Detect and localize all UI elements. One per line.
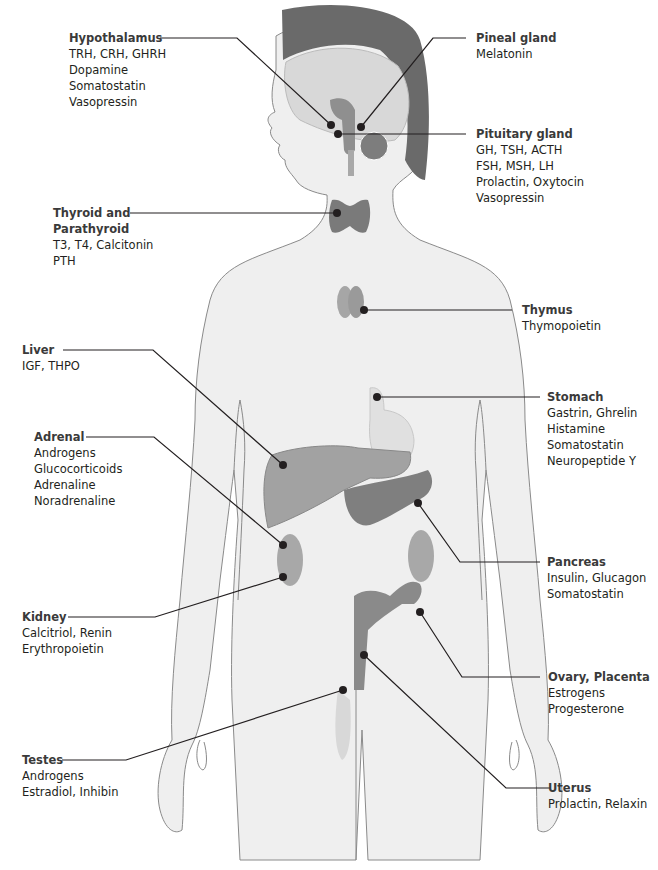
hormone-text: Noradrenaline xyxy=(34,493,122,509)
label-thyroid: Thyroid and Parathyroid T3, T4, Calciton… xyxy=(53,205,153,269)
hormone-text: Insulin, Glucagon xyxy=(547,570,646,586)
hormone-text: Androgens xyxy=(22,768,119,784)
hormone-text: Dopamine xyxy=(69,62,166,78)
hormone-text: Somatostatin xyxy=(547,586,646,602)
label-title: Testes xyxy=(22,752,119,768)
hormone-text: T3, T4, Calcitonin xyxy=(53,237,153,253)
hormone-text: Vasopressin xyxy=(476,190,584,206)
label-liver: Liver IGF, THPO xyxy=(22,342,80,374)
label-title: Pancreas xyxy=(547,554,646,570)
label-title: Adrenal xyxy=(34,429,122,445)
hormone-text: Melatonin xyxy=(476,46,556,62)
hormone-text: Prolactin, Oxytocin xyxy=(476,174,584,190)
hormone-text: Histamine xyxy=(547,421,637,437)
label-hypothalamus: Hypothalamus TRH, CRH, GHRH Dopamine Som… xyxy=(69,30,166,110)
hormone-text: Prolactin, Relaxin xyxy=(548,796,647,812)
hormone-text: TRH, CRH, GHRH xyxy=(69,46,166,62)
hormone-text: Thymopoietin xyxy=(522,318,601,334)
label-title: Thyroid and xyxy=(53,205,153,221)
label-ovary-placenta: Ovary, Placenta Estrogens Progesterone xyxy=(548,669,650,717)
label-title: Pituitary gland xyxy=(476,126,584,142)
hormone-text: FSH, MSH, LH xyxy=(476,158,584,174)
hormone-text: Androgens xyxy=(34,445,122,461)
label-title: Kidney xyxy=(22,609,112,625)
label-uterus: Uterus Prolactin, Relaxin xyxy=(548,780,647,812)
hormone-text: Estradiol, Inhibin xyxy=(22,784,119,800)
hormone-text: Neuropeptide Y xyxy=(547,453,637,469)
label-pancreas: Pancreas Insulin, Glucagon Somatostatin xyxy=(547,554,646,602)
label-thymus: Thymus Thymopoietin xyxy=(522,302,601,334)
label-title: Thymus xyxy=(522,302,601,318)
label-title: Liver xyxy=(22,342,80,358)
hormone-text: Erythropoietin xyxy=(22,641,112,657)
hormone-text: Calcitriol, Renin xyxy=(22,625,112,641)
label-pituitary: Pituitary gland GH, TSH, ACTH FSH, MSH, … xyxy=(476,126,584,206)
label-title: Stomach xyxy=(547,389,637,405)
hormone-text: Gastrin, Ghrelin xyxy=(547,405,637,421)
label-pineal: Pineal gland Melatonin xyxy=(476,30,556,62)
hormone-text: PTH xyxy=(53,253,153,269)
label-testes: Testes Androgens Estradiol, Inhibin xyxy=(22,752,119,800)
label-title: Uterus xyxy=(548,780,647,796)
label-title: Ovary, Placenta xyxy=(548,669,650,685)
hormone-text: Vasopressin xyxy=(69,94,166,110)
hormone-text: Estrogens xyxy=(548,685,650,701)
label-title: Pineal gland xyxy=(476,30,556,46)
kidney-right xyxy=(408,530,434,582)
label-adrenal: Adrenal Androgens Glucocorticoids Adrena… xyxy=(34,429,122,509)
hormone-text: GH, TSH, ACTH xyxy=(476,142,584,158)
hormone-text: Glucocorticoids xyxy=(34,461,122,477)
hormone-text: Somatostatin xyxy=(69,78,166,94)
hormone-text: Adrenaline xyxy=(34,477,122,493)
label-stomach: Stomach Gastrin, Ghrelin Histamine Somat… xyxy=(547,389,637,469)
label-title: Parathyroid xyxy=(53,221,153,237)
hormone-text: IGF, THPO xyxy=(22,358,80,374)
label-kidney: Kidney Calcitriol, Renin Erythropoietin xyxy=(22,609,112,657)
label-title: Hypothalamus xyxy=(69,30,166,46)
hormone-text: Progesterone xyxy=(548,701,650,717)
hormone-text: Somatostatin xyxy=(547,437,637,453)
